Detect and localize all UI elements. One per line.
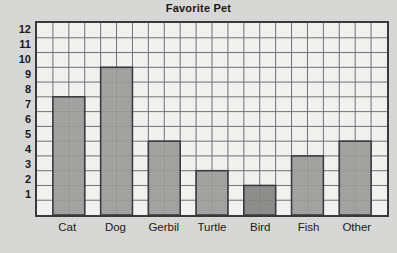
bar-chart: Favorite Pet 123456789101112 CatDogGerbi… xyxy=(0,0,397,253)
chart-title: Favorite Pet xyxy=(0,2,397,14)
x-tick-label-dog: Dog xyxy=(105,221,126,233)
y-tick-label-12: 12 xyxy=(0,23,31,34)
x-tick-label-cat: Cat xyxy=(58,221,76,233)
y-tick-label-4: 4 xyxy=(0,144,31,155)
x-axis: CatDogGerbilTurtleBirdFishOther xyxy=(35,221,389,243)
grid-lines xyxy=(37,23,387,215)
y-tick-label-5: 5 xyxy=(0,129,31,140)
y-tick-label-10: 10 xyxy=(0,53,31,64)
y-tick-label-6: 6 xyxy=(0,114,31,125)
y-tick-label-2: 2 xyxy=(0,174,31,185)
y-tick-label-11: 11 xyxy=(0,38,31,49)
x-tick-label-fish: Fish xyxy=(298,221,320,233)
y-tick-label-8: 8 xyxy=(0,83,31,94)
y-tick-label-1: 1 xyxy=(0,189,31,200)
y-axis: 123456789101112 xyxy=(0,21,31,217)
y-tick-label-9: 9 xyxy=(0,68,31,79)
y-tick-label-7: 7 xyxy=(0,98,31,109)
x-tick-label-other: Other xyxy=(342,221,371,233)
x-tick-label-bird: Bird xyxy=(250,221,270,233)
x-tick-label-turtle: Turtle xyxy=(198,221,227,233)
x-tick-label-gerbil: Gerbil xyxy=(148,221,179,233)
y-tick-label-3: 3 xyxy=(0,159,31,170)
plot-area xyxy=(35,21,389,217)
